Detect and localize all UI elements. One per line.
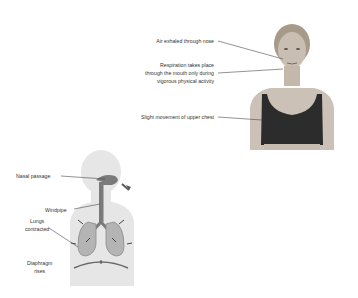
label-lungs-line1: Lungs: [25, 217, 49, 225]
label-air-exhaled: Air exhaled through nose: [156, 37, 214, 45]
label-mouth-line1: Respiration takes place: [145, 61, 214, 69]
label-diaphragm-rises: Diaphragm rises: [27, 259, 52, 275]
label-mouth-respiration: Respiration takes place through the mout…: [145, 61, 214, 85]
woman-photo: [250, 24, 334, 150]
label-diaphragm-line1: Diaphragm: [27, 259, 52, 267]
label-lungs-line2: contracted: [25, 225, 49, 233]
label-upper-chest: Slight movement of upper chest: [141, 113, 214, 121]
respiratory-diagram: [70, 150, 134, 286]
label-mouth-line2: through the mouth only during: [145, 69, 214, 77]
label-lungs-contracted: Lungs contracted: [25, 217, 49, 233]
label-nasal-passage: Nasal passage: [16, 172, 50, 180]
label-mouth-line3: vigorous physical activity: [145, 77, 214, 85]
label-diaphragm-line2: rises: [27, 267, 52, 275]
label-windpipe: Windpipe: [45, 206, 67, 214]
